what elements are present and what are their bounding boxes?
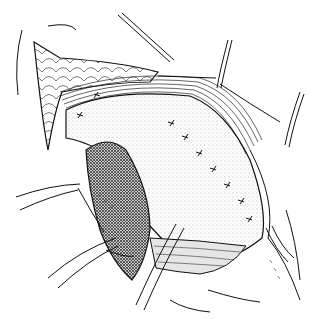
skin-outline <box>17 30 22 95</box>
retractor-right-lower <box>266 226 294 262</box>
retractor-top-left <box>118 13 174 62</box>
illustration-svg <box>0 0 316 319</box>
surgical-illustration <box>0 0 316 319</box>
retractor-top-right-2 <box>285 92 304 147</box>
